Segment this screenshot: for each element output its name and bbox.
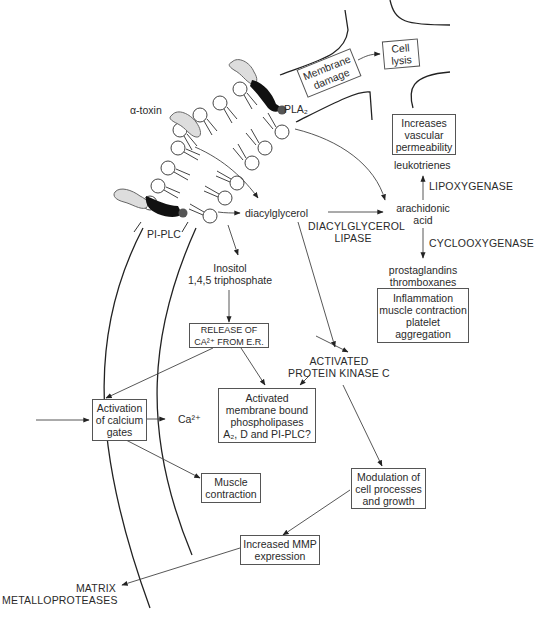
- matrix-mmp-label: MATRIX METALLOPROTEASES: [2, 582, 116, 606]
- arrow-to-inositol: [228, 225, 238, 255]
- vp-line3: permeability: [396, 141, 453, 153]
- dag-lipase-line1: DIACYLGLYCEROL: [308, 220, 398, 232]
- cell-lysis-box: Cell lysis: [382, 38, 420, 69]
- modulation-line1: Modulation of: [357, 471, 420, 483]
- vp-line1: Increases: [401, 117, 447, 129]
- release-ca-line1: RELEASE OF: [201, 324, 258, 336]
- pi-plc-label: PI-PLC: [147, 228, 181, 240]
- cyclooxygenase-label: CYCLOOXYGENASE: [429, 237, 534, 249]
- inositol-label: Inositol 1,4,5 triphosphate: [183, 262, 277, 286]
- muscle-contraction-box: Muscle contraction: [201, 473, 261, 503]
- arachidonic-line1: arachidonic: [390, 202, 456, 214]
- arrow-pkc-to-modulation: [343, 385, 382, 466]
- phospholipases-line4: A₂, D and PI-PLC?: [223, 428, 311, 440]
- prostaglandins-line2: thromboxanes: [385, 276, 461, 288]
- ca2-label: Ca²⁺: [178, 413, 201, 425]
- increased-mmp-box: Increased MMP expression: [240, 535, 320, 565]
- gates-line3: gates: [107, 426, 133, 438]
- outer-leaflet: [143, 82, 257, 215]
- arrow-gates-to-muscle: [126, 440, 200, 478]
- inositol-line2: 1,4,5 triphosphate: [183, 274, 277, 286]
- dag-lipase-line2: LIPASE: [308, 232, 398, 244]
- modulation-line2: cell processes: [355, 483, 422, 495]
- pkc-line1: ACTIVATED: [287, 355, 391, 367]
- inflammation-line2: muscle contraction: [379, 304, 467, 316]
- inflammation-box: Inflammation muscle contraction platelet…: [377, 288, 469, 343]
- prostaglandins-line1: prostaglandins: [385, 264, 461, 276]
- arrow-membrane-to-dag: [195, 147, 258, 198]
- phospholipases-line2: membrane bound: [226, 404, 308, 416]
- pkc-line2: PROTEIN KINASE C: [287, 367, 391, 379]
- leukotrienes-label: leukotrienes: [394, 159, 451, 171]
- pi-plc-toxin: [114, 189, 187, 217]
- gates-line1: Activation: [97, 402, 143, 414]
- muscle-line1: Muscle: [214, 476, 247, 488]
- activated-pkc-label: ACTIVATED PROTEIN KINASE C: [287, 355, 391, 379]
- arrow-mmp-to-matrix: [122, 548, 240, 585]
- mmp-line1: Increased MMP: [243, 538, 317, 550]
- phospholipases-line3: phospholipases: [231, 416, 304, 428]
- release-ca-line2: CA²⁺ FROM E.R.: [194, 336, 264, 348]
- arrow-release-to-phospholipases: [241, 348, 265, 385]
- matrix-line1: MATRIX: [2, 582, 116, 594]
- calcium-gates-box: Activation of calcium gates: [92, 399, 147, 441]
- diacylglycerol-label: diacylglycerol: [245, 207, 308, 219]
- inflammation-line4: aggregation: [395, 328, 450, 340]
- dag-lipase-label: DIACYLGLYCEROL LIPASE: [308, 220, 398, 244]
- muscle-line2: contraction: [205, 488, 256, 500]
- release-ca-box: RELEASE OF CA²⁺ FROM E.R.: [189, 323, 269, 348]
- vp-line2: vascular: [404, 129, 443, 141]
- inflammation-line1: Inflammation: [393, 292, 453, 304]
- modulation-line3: and growth: [363, 495, 415, 507]
- lipoxygenase-label: LIPOXYGENASE: [429, 180, 513, 192]
- activated-phospholipases-box: Activated membrane bound phospholipases …: [218, 388, 316, 443]
- inflammation-line3: platelet: [406, 316, 440, 328]
- phospholipases-line1: Activated: [245, 392, 288, 404]
- alpha-toxin-label: α-toxin: [130, 104, 162, 116]
- cell-lysis-line2: lysis: [391, 53, 412, 67]
- arrow-pla2-to-arachidonic: [295, 129, 385, 200]
- prostaglandins-label: prostaglandins thromboxanes: [385, 264, 461, 288]
- arrow-modulation-to-mmp: [283, 490, 350, 535]
- gates-line2: of calcium: [96, 414, 143, 426]
- arrow-membrane-to-dag-2: [218, 212, 240, 213]
- mmp-line2: expression: [255, 550, 306, 562]
- pla2-label: PLA₂: [284, 103, 308, 115]
- inositol-line1: Inositol: [183, 262, 277, 274]
- modulation-box: Modulation of cell processes and growth: [351, 468, 426, 509]
- matrix-line2: METALLOPROTEASES: [2, 594, 116, 606]
- vascular-permeability-box: Increases vascular permeability: [392, 114, 456, 155]
- arrow-damage-to-lysis: [358, 54, 380, 60]
